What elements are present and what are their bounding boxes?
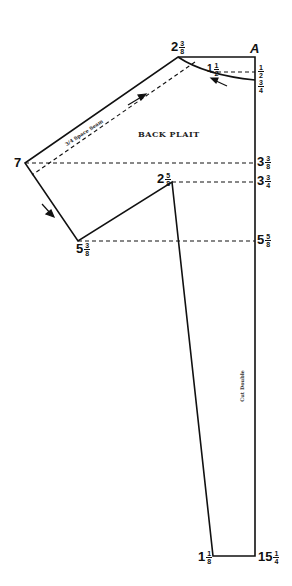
denominator: 8 [84,250,90,257]
fraction: 34 [258,79,264,94]
numerator: 3 [179,40,185,48]
numerator: 3 [265,155,271,163]
fraction: 14 [273,550,279,565]
numerator: 5 [265,233,271,241]
label-whole: 1 [198,549,205,564]
numerator: 5 [165,172,171,180]
numerator: 3 [265,174,271,182]
seam-allowance-line [32,62,195,175]
denominator: 4 [273,558,279,565]
label-right-three-quarter: 34 [257,78,264,94]
fraction: 38 [84,242,90,257]
denominator: 8 [265,241,271,248]
label-right-3-3-4: 334 [257,174,271,189]
label-inner-point: 258 [157,172,171,187]
label-whole: 2 [157,171,164,186]
label-right-5-5-8: 558 [257,233,271,248]
fraction: 18 [206,550,212,565]
label-whole: 2 [171,39,178,54]
numerator: 1 [206,550,212,558]
fraction: 58 [165,172,171,187]
denominator: 4 [258,87,264,94]
denominator: 8 [206,558,212,565]
label-whole: 5 [257,232,264,247]
label-curve-mid: 112 [207,62,219,77]
fold-note: Cut Double [239,370,245,402]
label-bottom-right: 1514 [258,550,279,565]
numerator: 3 [84,242,90,250]
label-right-half: 12 [257,63,264,79]
numerator: 1 [273,550,279,558]
denominator: 8 [179,48,185,55]
numerator: 1 [258,64,264,72]
fraction: 58 [265,233,271,248]
denominator: 2 [214,70,220,77]
label-whole: 5 [76,241,83,256]
numerator: 1 [214,62,220,70]
label-top-peak: 238 [171,40,185,55]
numerator: 3 [258,79,264,87]
label-whole: 15 [258,549,272,564]
fraction: 12 [214,62,220,77]
label-bottom-left: 118 [198,550,212,565]
fraction: 38 [265,155,271,170]
label-whole: 1 [207,63,213,74]
fraction: 38 [179,40,185,55]
fraction: 34 [265,174,271,189]
label-whole: 3 [257,173,264,188]
label-corner-a: A [250,42,259,55]
denominator: 8 [165,180,171,187]
pattern-title: BACK PLAIT [138,129,200,139]
denominator: 4 [265,182,271,189]
label-whole: 3 [257,154,264,169]
denominator: 8 [265,163,271,170]
label-lower-left: 538 [76,242,90,257]
label-right-3-3-8: 338 [257,155,271,170]
label-left-point: 7 [14,156,21,169]
pattern-drawing [0,0,292,586]
